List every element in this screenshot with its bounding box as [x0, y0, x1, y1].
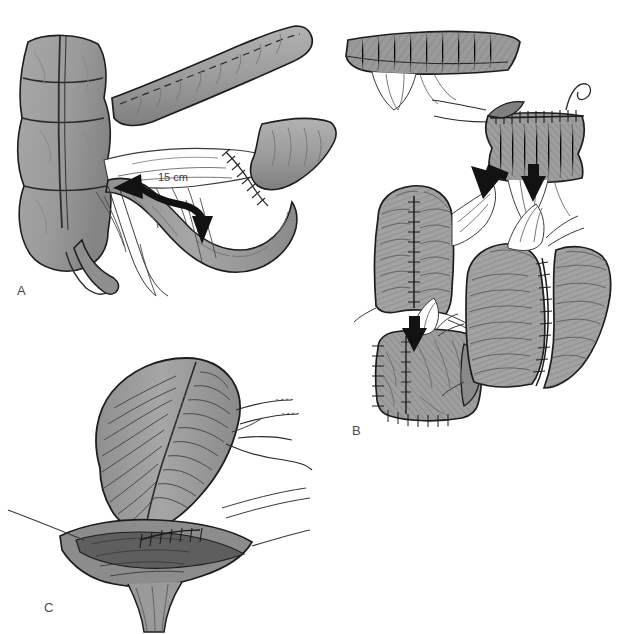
surgical-illustration-figure: A B C 15 cm	[0, 0, 623, 634]
sutured-limb-b2	[432, 84, 591, 226]
length-annotation: 15 cm	[158, 171, 188, 183]
colon-haustra	[18, 35, 111, 271]
panel-label-c: C	[44, 600, 54, 615]
illustration-canvas	[0, 0, 623, 634]
ileal-limb-right	[251, 118, 337, 189]
opened-limb-b1	[346, 31, 520, 110]
panel-c-group	[8, 358, 312, 632]
pouch-body-c	[96, 358, 240, 531]
panel-label-a: A	[17, 283, 26, 298]
panel-b-group	[346, 31, 611, 427]
panel-a-group	[18, 26, 336, 296]
ileal-limb-upper	[112, 26, 312, 125]
panel-label-b: B	[352, 423, 361, 438]
